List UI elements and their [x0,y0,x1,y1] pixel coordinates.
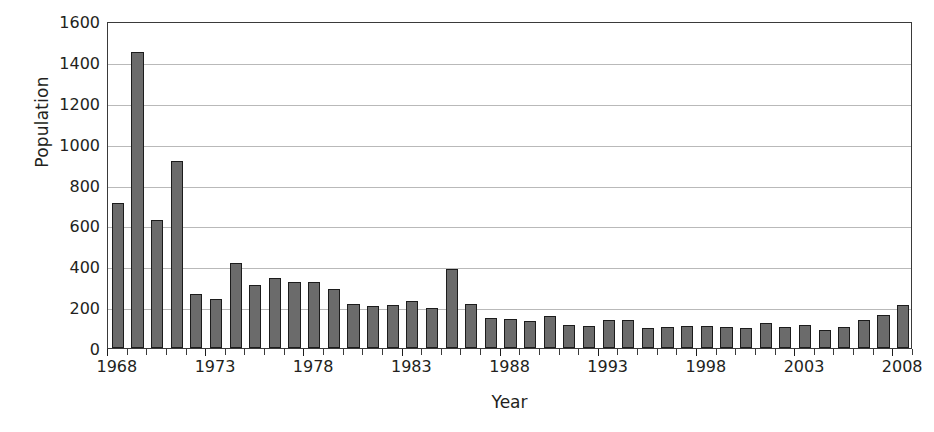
x-axis-tick-mark [146,349,147,355]
bar [544,316,556,348]
x-axis-title: Year [107,392,912,412]
x-axis-tick-label: 1978 [293,357,334,376]
x-axis-tick-mark [637,349,638,355]
bar [308,282,320,348]
bar [210,299,222,348]
bar [603,320,615,348]
x-axis-tick-mark [814,349,815,355]
x-axis-tick-mark [833,349,834,355]
x-axis-tick-label: 1998 [685,357,726,376]
y-axis-tick-label: 0 [90,340,100,359]
x-axis-tick-mark [735,349,736,355]
bar [328,289,340,348]
bar [858,320,870,348]
bar [465,304,477,348]
x-axis-tick-mark [264,349,265,355]
x-axis-tick-mark [500,349,501,356]
x-axis-tick-mark [480,349,481,355]
x-axis-tick-label: 1983 [391,357,432,376]
x-axis-tick-label: 1973 [195,357,236,376]
bar [171,161,183,348]
x-axis-tick-mark [284,349,285,355]
x-axis-tick-marks [107,349,912,356]
bar [740,328,752,348]
bar [779,327,791,348]
x-axis-tick-mark [794,349,795,356]
population-by-year-bar-chart: Population 02004006008001000120014001600… [0,0,934,432]
x-axis-tick-mark [539,349,540,355]
bar [249,285,261,348]
y-axis-tick-label: 800 [69,176,100,195]
bar [877,315,889,348]
y-axis-tick-label: 200 [69,299,100,318]
bar [288,282,300,348]
x-axis-tick-label: 2008 [882,357,923,376]
x-axis-tick-mark [873,349,874,355]
bar [269,278,281,349]
x-axis-tick-mark [303,349,304,356]
y-axis-tick-label: 400 [69,258,100,277]
x-axis-tick-label: 2003 [784,357,825,376]
bar [230,263,242,348]
bar [112,203,124,348]
x-axis-tick-mark [617,349,618,355]
bar [897,305,909,348]
bar [760,323,772,348]
x-axis-tick-mark [402,349,403,356]
x-axis-tick-mark [460,349,461,355]
plot-area [107,22,912,349]
bar [387,305,399,348]
bar [524,321,536,348]
x-axis-tick-mark [343,349,344,355]
bar [367,306,379,348]
x-axis-tick-mark [559,349,560,355]
bar [485,318,497,348]
bar [426,308,438,348]
x-axis-tick-mark [127,349,128,355]
bar [446,269,458,348]
x-axis-tick-mark [421,349,422,355]
x-axis-tick-mark [186,349,187,355]
bar [151,220,163,348]
bar [681,326,693,348]
bar [799,325,811,349]
x-axis-tick-mark [382,349,383,355]
x-axis-tick-mark [323,349,324,355]
x-axis-tick-mark [892,349,893,356]
y-axis-tick-label: 600 [69,217,100,236]
bar [347,304,359,348]
x-axis-tick-labels: 196819731978198319881993199820032008 [107,357,912,383]
x-axis-tick-mark [519,349,520,355]
x-axis-tick-mark [696,349,697,356]
bar-series [108,23,911,348]
bar [622,320,634,348]
x-axis-tick-mark [676,349,677,355]
bar [504,319,516,348]
bar [720,327,732,348]
bar [701,326,713,348]
y-axis-tick-label: 1000 [59,135,100,154]
x-axis-tick-mark [166,349,167,355]
y-axis-tick-labels: 02004006008001000120014001600 [46,22,100,349]
bar [838,327,850,348]
x-axis-tick-mark [244,349,245,355]
bar [190,294,202,348]
x-axis-tick-mark [716,349,717,355]
bar [583,326,595,348]
x-axis-tick-label: 1988 [489,357,530,376]
bar [131,52,143,348]
y-axis-tick-label: 1600 [59,13,100,32]
x-axis-tick-mark [578,349,579,355]
y-axis-tick-label: 1200 [59,94,100,113]
x-axis-tick-mark [912,349,913,355]
x-axis-tick-mark [755,349,756,355]
x-axis-tick-mark [205,349,206,356]
x-axis-tick-label: 1993 [587,357,628,376]
x-axis-tick-mark [657,349,658,355]
bar [819,330,831,348]
bar [406,301,418,348]
x-axis-tick-mark [853,349,854,355]
bar [661,327,673,348]
x-axis-tick-mark [362,349,363,355]
x-axis-tick-mark [441,349,442,355]
